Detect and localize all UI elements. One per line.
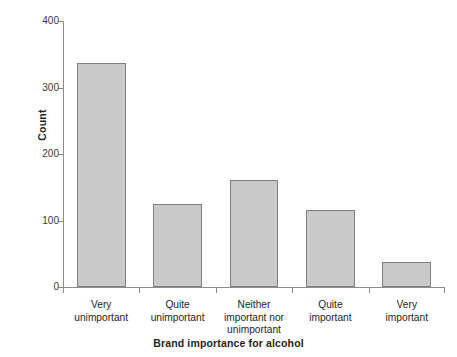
bar-chart-figure: Count 0100200300400 Very unimportantQuit… (0, 0, 457, 357)
x-axis-line (63, 287, 445, 288)
category-label: Quite important (292, 299, 368, 324)
x-tick (444, 288, 445, 293)
x-tick (216, 288, 217, 293)
y-tick-label-200: 200 (13, 149, 59, 159)
y-tick-label-300: 300 (13, 83, 59, 93)
y-tick-label-400: 400 (13, 16, 59, 26)
y-tick-label-0: 0 (13, 282, 59, 292)
x-tick (292, 288, 293, 293)
plot-area: 0100200300400 Very unimportantQuite unim… (63, 18, 445, 290)
x-tick (63, 288, 64, 293)
category-label: Very important (369, 299, 445, 324)
category-label: Very unimportant (63, 299, 139, 324)
bar (306, 210, 355, 287)
category-label: Neither important nor unimportant (216, 299, 292, 337)
x-tick (369, 288, 370, 293)
bar (153, 204, 202, 287)
y-axis-line (63, 21, 64, 287)
bar (77, 63, 126, 287)
bar (382, 262, 431, 287)
x-tick (139, 288, 140, 293)
x-axis-title: Brand importance for alcohol (0, 337, 457, 349)
bar (230, 180, 279, 287)
category-label: Quite unimportant (139, 299, 215, 324)
y-tick-label-100: 100 (13, 216, 59, 226)
